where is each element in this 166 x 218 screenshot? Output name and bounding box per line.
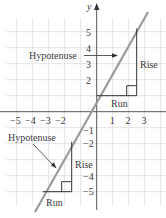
rise-label-lower: Rise <box>75 159 93 170</box>
x-tick-neg4: −4 <box>25 115 36 126</box>
x-tick-neg5: −5 <box>10 115 21 126</box>
rise-label-upper: Rise <box>140 59 158 70</box>
y-tick-neg2: −2 <box>83 138 94 149</box>
upper-slope-triangle <box>97 29 137 96</box>
run-label-upper: Run <box>111 98 128 109</box>
coordinate-plane-figure: y 1 2 3 −5 −4 −3 −2 5 4 3 2 −1 −2 −4 −5 … <box>0 0 166 218</box>
y-tick-4: 4 <box>86 43 91 54</box>
x-tick-neg2: −2 <box>55 115 66 126</box>
y-tick-neg1: −1 <box>83 125 94 136</box>
y-tick-neg5: −5 <box>83 186 94 197</box>
lower-slope-triangle <box>43 142 72 192</box>
y-tick-neg4: −4 <box>83 171 94 182</box>
hypotenuse-label-lower: Hypotenuse <box>8 132 56 143</box>
x-tick-1: 1 <box>110 115 115 126</box>
x-tick-3: 3 <box>142 115 147 126</box>
run-label-lower: Run <box>46 197 63 208</box>
y-tick-2: 2 <box>86 75 91 86</box>
y-tick-5: 5 <box>86 27 91 38</box>
x-tick-2: 2 <box>126 115 131 126</box>
x-tick-neg3: −3 <box>40 115 51 126</box>
hypotenuse-label-upper: Hypotenuse <box>29 50 77 61</box>
y-axis-label: y <box>86 1 92 12</box>
arrowhead-icon <box>112 53 118 57</box>
hypotenuse-arrow-lower <box>33 144 54 166</box>
y-tick-3: 3 <box>86 59 91 70</box>
y-axis-arrow-icon <box>94 3 99 10</box>
